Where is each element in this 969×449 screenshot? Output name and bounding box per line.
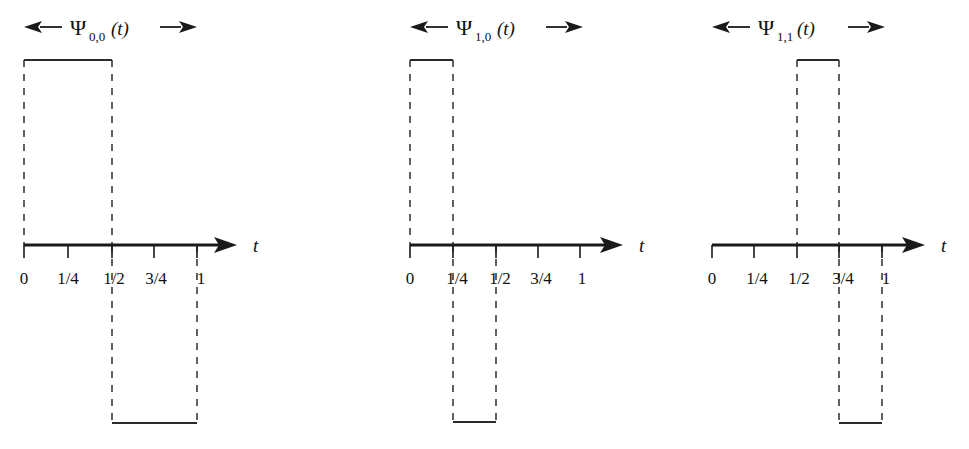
panel-0-0-ticklabel-1: 1/4 — [57, 269, 79, 288]
panel-1-1-ticklabel-3: 3/4 — [832, 269, 854, 288]
panel-1-1-label-symbol: Ψ — [758, 15, 775, 40]
panel-0-0-label-subscript: 0,0 — [89, 29, 105, 44]
panel-1-0-ticklabel-3: 3/4 — [530, 269, 552, 288]
panel-0-0-label-arg: (t) — [111, 18, 129, 40]
panel-1-0-ticklabel-2: 1/2 — [489, 269, 511, 288]
panel-1-0-label-arg: (t) — [497, 18, 515, 40]
panel-psi-1-0: Ψ 1,0 (t) t 0 1/4 1/2 3/4 1 — [406, 15, 645, 422]
panel-0-0-label-symbol: Ψ — [70, 15, 87, 40]
panel-1-1-ticklabel-0: 0 — [708, 269, 717, 288]
panel-1-0-ticklabel-4: 1 — [578, 269, 587, 288]
panel-psi-0-0: Ψ 0,0 (t) t 0 1/4 1/2 3/4 — [20, 15, 259, 423]
panel-psi-1-1: Ψ 1,1 (t) t 0 1/4 1/2 3/4 1 — [708, 15, 947, 423]
panel-1-0-label-subscript: 1,0 — [475, 29, 491, 44]
panel-1-1-axis-label: t — [941, 235, 947, 256]
panel-1-1-ticklabel-1: 1/4 — [746, 269, 768, 288]
panel-1-1-label-subscript: 1,1 — [777, 29, 793, 44]
panel-0-0-ticklabel-3: 3/4 — [145, 269, 167, 288]
panel-0-0-ticklabel-0: 0 — [20, 269, 29, 288]
panel-1-0-axis-label: t — [639, 235, 645, 256]
panel-0-0-ticklabel-4: 1 — [197, 269, 206, 288]
panel-1-1-ticklabel-4: 1 — [882, 269, 891, 288]
panel-0-0-axis-label: t — [253, 235, 259, 256]
panel-1-0-ticklabel-1: 1/4 — [446, 269, 468, 288]
figure-canvas: Ψ 0,0 (t) t 0 1/4 1/2 3/4 — [0, 0, 969, 449]
panel-1-1-ticklabel-2: 1/2 — [788, 269, 810, 288]
panel-0-0-ticklabel-2: 1/2 — [103, 269, 125, 288]
panel-1-1-label-arg: (t) — [797, 18, 815, 40]
panel-1-0-ticklabel-0: 0 — [406, 269, 415, 288]
wavelet-figure: Ψ 0,0 (t) t 0 1/4 1/2 3/4 — [0, 0, 969, 449]
panel-1-0-label-symbol: Ψ — [456, 15, 473, 40]
